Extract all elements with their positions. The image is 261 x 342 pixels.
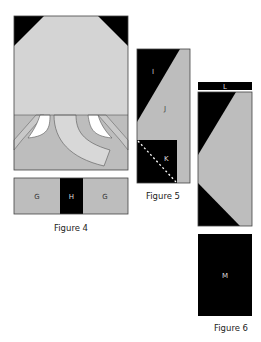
fig5-label-i: I xyxy=(152,68,154,76)
fig4-upper-block xyxy=(14,16,128,115)
fig5-label-k: K xyxy=(164,155,169,163)
fig5-caption: Figure 5 xyxy=(146,191,180,201)
figure-4: G H G Figure 4 xyxy=(14,16,128,233)
fig5-label-j: J xyxy=(163,105,166,113)
fig6-label-l: L xyxy=(223,83,227,91)
fig4-label-g-right: G xyxy=(102,193,107,201)
fig4-label-h: H xyxy=(69,193,74,201)
fig6-caption: Figure 6 xyxy=(214,323,248,333)
fig4-label-g-left: G xyxy=(34,193,39,201)
fig4-caption: Figure 4 xyxy=(54,223,88,233)
fig6-label-m: M xyxy=(222,272,228,280)
figure-5: I J K Figure 5 xyxy=(137,49,190,201)
figure-6: L M Figure 6 xyxy=(198,82,252,333)
quilt-diagram: G H G Figure 4 I J K Figure 5 L M Figure… xyxy=(0,0,261,342)
